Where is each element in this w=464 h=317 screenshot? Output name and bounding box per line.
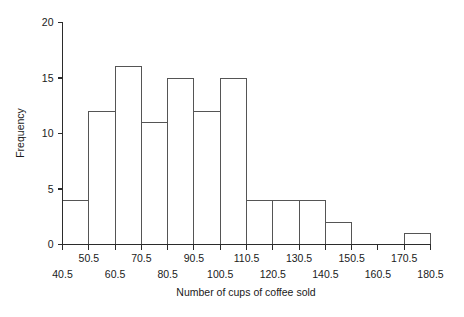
- x-axis-tick-label: 80.5: [157, 268, 178, 280]
- x-axis-tick-label: 40.5: [52, 268, 73, 280]
- y-axis-tick-label: 15: [42, 72, 54, 84]
- x-axis-tick-label: 110.5: [234, 252, 260, 264]
- x-axis-tick-label: 100.5: [207, 268, 233, 280]
- histogram-figure: 05101520 50.570.590.5110.5130.5150.5170.…: [0, 0, 464, 317]
- x-axis-title: Number of cups of coffee sold: [176, 286, 315, 298]
- x-axis-tick-label: 160.5: [365, 268, 391, 280]
- x-axis-tick-label: 70.5: [131, 252, 152, 264]
- x-axis-tick-label: 90.5: [184, 252, 205, 264]
- y-axis-tick-label: 20: [42, 16, 54, 28]
- x-axis-tick-label: 130.5: [286, 252, 312, 264]
- y-axis-tick-label: 0: [48, 238, 54, 250]
- y-axis-title: Frequency: [14, 107, 26, 157]
- x-axis-tick-label: 60.5: [105, 268, 126, 280]
- x-axis-tick-label: 180.5: [417, 268, 443, 280]
- x-axis-tick-label: 170.5: [391, 252, 417, 264]
- x-axis-tick-label: 50.5: [79, 252, 100, 264]
- x-axis-tick-label: 140.5: [312, 268, 338, 280]
- x-axis-tick-label: 150.5: [338, 252, 364, 264]
- y-axis-tick-label: 5: [48, 183, 54, 195]
- y-axis-tick-label: 10: [42, 127, 54, 139]
- x-axis-tick-label: 120.5: [260, 268, 286, 280]
